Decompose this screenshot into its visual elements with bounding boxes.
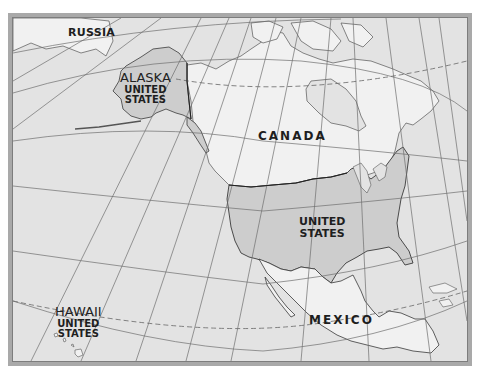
- label-hawaii-country-2: STATES: [55, 329, 102, 340]
- map-frame: RUSSIA ALASKA UNITED STATES CANADA UNITE…: [8, 13, 472, 366]
- label-hawaii-name: HAWAII: [55, 305, 102, 319]
- label-us-line-1: UNITED: [299, 216, 345, 228]
- label-alaska-group: ALASKA UNITED STATES: [120, 71, 171, 106]
- label-alaska-name: ALASKA: [120, 71, 171, 85]
- label-hawaii-group: HAWAII UNITED STATES: [55, 305, 102, 340]
- label-russia: RUSSIA: [68, 27, 115, 39]
- label-us-line-2: STATES: [299, 228, 345, 240]
- label-united-states-group: UNITED STATES: [299, 216, 345, 239]
- label-alaska-country-2: STATES: [120, 95, 171, 106]
- map-canvas: RUSSIA ALASKA UNITED STATES CANADA UNITE…: [12, 17, 468, 362]
- label-mexico: MEXICO: [309, 314, 374, 327]
- label-canada: CANADA: [258, 130, 327, 143]
